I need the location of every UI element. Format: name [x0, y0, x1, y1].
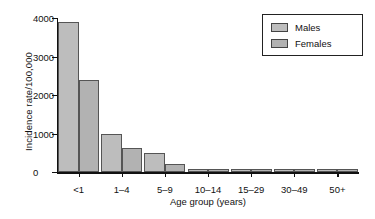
bar-females [251, 169, 272, 172]
x-tick-label: <1 [73, 184, 84, 195]
bar-males [101, 134, 122, 173]
y-tick-label: 0 [33, 167, 45, 178]
y-tick-mark [52, 172, 57, 173]
x-tick-mark [165, 172, 166, 177]
incidence-rate-bar-chart: Incidence rate/100,000 01000200030004000… [0, 0, 375, 219]
legend-label-males: Males [295, 22, 320, 33]
chart-legend: Males Females [262, 14, 363, 56]
bar-males [274, 169, 295, 172]
x-tick-mark [251, 172, 252, 177]
x-axis-title: Age group (years) [57, 196, 359, 207]
legend-item-males: Males [271, 19, 362, 35]
legend-label-females: Females [295, 38, 331, 49]
x-tick-label: 15–29 [238, 184, 264, 195]
legend-swatch-females-icon [271, 39, 288, 48]
x-tick-mark [294, 172, 295, 177]
bar-females [208, 169, 229, 172]
x-tick-mark [208, 172, 209, 177]
x-tick-mark [337, 172, 338, 177]
x-tick-label: 1–4 [114, 184, 130, 195]
y-tick-label: 3000 [33, 51, 45, 62]
x-tick-label: 50+ [329, 184, 345, 195]
y-tick-label: 4000 [33, 13, 45, 24]
y-tick-label: 1000 [33, 128, 45, 139]
bar-females [122, 148, 143, 172]
bar-males [317, 169, 338, 172]
x-tick-mark [122, 172, 123, 177]
bar-females [165, 164, 186, 172]
bar-females [294, 169, 315, 172]
legend-swatch-males-icon [271, 23, 288, 32]
bar-males [231, 169, 252, 172]
x-tick-label: 30–49 [281, 184, 307, 195]
y-tick-label: 2000 [33, 90, 45, 101]
bar-males [188, 169, 209, 172]
bar-females [337, 169, 358, 172]
bar-females [79, 80, 100, 172]
y-axis-title: Incidence rate/100,000 [23, 22, 34, 182]
x-tick-label: 5–9 [157, 184, 173, 195]
legend-item-females: Females [271, 35, 362, 51]
bar-males [144, 153, 165, 172]
bar-males [58, 22, 79, 172]
x-tick-mark [79, 172, 80, 177]
x-tick-label: 10–14 [195, 184, 221, 195]
